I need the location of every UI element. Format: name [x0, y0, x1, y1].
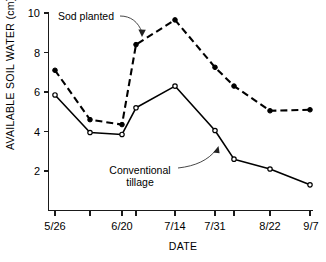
x-tick-label-6-20: 6/20 [111, 220, 132, 232]
x-tick-label-8-22: 8/22 [259, 220, 280, 232]
data-point-sod-planted [308, 107, 313, 112]
x-tick-label-9-7: 9/7 [303, 220, 318, 232]
data-point-sod-planted [173, 18, 178, 23]
y-tick-label-2: 2 [34, 165, 40, 177]
data-point-conventional-tillage [232, 157, 236, 161]
x-tick-label-7-14: 7/14 [164, 220, 185, 232]
data-point-sod-planted [53, 68, 58, 73]
data-point-conventional-tillage [134, 106, 138, 110]
y-tick-label-6: 6 [34, 86, 40, 98]
chart-container: 10 8 6 4 2 AVAILABLE SOIL WATER (cm) 5/2… [0, 0, 326, 262]
y-tick-label-10: 10 [28, 7, 40, 19]
x-tick-label-5-26: 5/26 [44, 220, 65, 232]
data-point-sod-planted [232, 84, 237, 89]
annotation-conventional-tillage-label-line1: Conventional [109, 164, 170, 176]
x-tick-label-7-31: 7/31 [204, 220, 225, 232]
data-point-conventional-tillage [88, 130, 92, 134]
data-point-conventional-tillage [120, 132, 124, 136]
data-point-conventional-tillage [268, 167, 272, 171]
y-axis-title: AVAILABLE SOIL WATER (cm) [4, 0, 16, 150]
y-tick-label-8: 8 [34, 47, 40, 59]
data-point-sod-planted [268, 108, 273, 113]
data-point-sod-planted [88, 117, 93, 122]
annotation-conventional-tillage-label-line2: tillage [126, 176, 154, 188]
data-point-conventional-tillage [213, 128, 217, 132]
data-point-conventional-tillage [308, 183, 312, 187]
soil-water-line-chart: 10 8 6 4 2 AVAILABLE SOIL WATER (cm) 5/2… [0, 0, 326, 262]
annotation-sod-planted-label: Sod planted [58, 10, 114, 22]
data-point-conventional-tillage [173, 84, 177, 88]
data-point-sod-planted [134, 42, 139, 47]
x-axis-title: DATE [169, 240, 197, 252]
data-point-sod-planted [120, 122, 125, 127]
data-point-conventional-tillage [53, 93, 57, 97]
data-point-sod-planted [213, 65, 218, 70]
y-tick-label-4: 4 [34, 126, 40, 138]
